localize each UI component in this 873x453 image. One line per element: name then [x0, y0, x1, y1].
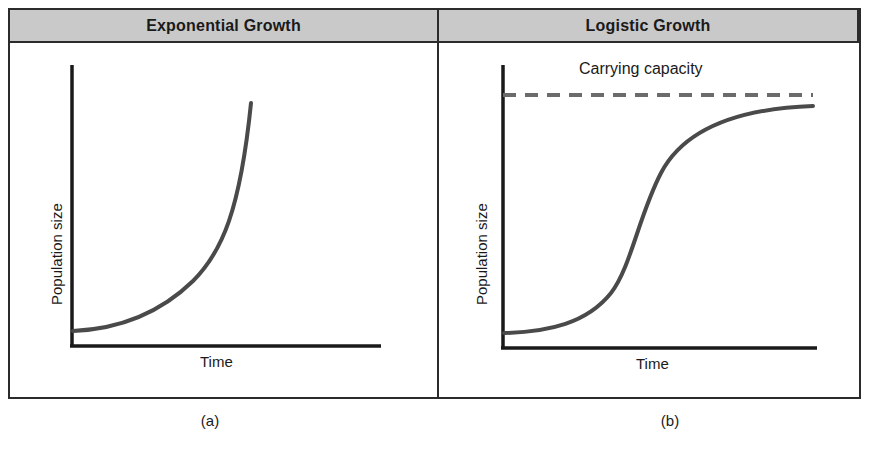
- header-exponential-growth: Exponential Growth: [8, 8, 439, 43]
- growth-curves-figure: Exponential Growth Logistic Growth Popul…: [0, 0, 873, 453]
- logistic-curve: [504, 106, 813, 333]
- panel-logistic: Carrying capacity Population size Time: [439, 43, 861, 399]
- carrying-capacity-label: Carrying capacity: [579, 61, 703, 77]
- logistic-growth-plot: [439, 43, 861, 399]
- caption-b: (b): [610, 413, 730, 428]
- x-axis-label-exponential: Time: [200, 354, 233, 369]
- caption-a: (a): [150, 413, 270, 428]
- header-title-exponential: Exponential Growth: [146, 18, 301, 34]
- panel-headers: Exponential Growth Logistic Growth: [8, 8, 861, 43]
- y-axis-label-exponential: Population size: [49, 203, 64, 305]
- x-axis-label-logistic: Time: [636, 356, 669, 371]
- exponential-growth-plot: [8, 43, 437, 399]
- panel-exponential: Population size Time: [8, 43, 437, 399]
- header-logistic-growth: Logistic Growth: [437, 8, 859, 43]
- exponential-curve: [73, 103, 251, 331]
- y-axis-label-logistic: Population size: [474, 203, 489, 305]
- header-title-logistic: Logistic Growth: [586, 18, 711, 34]
